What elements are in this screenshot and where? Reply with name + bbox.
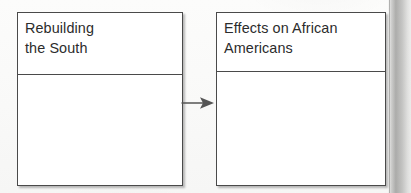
arrow-right-icon xyxy=(181,93,215,113)
box-header-rebuilding-the-south: Rebuilding the South xyxy=(18,13,182,75)
organizer-box-rebuilding-the-south: Rebuilding the South xyxy=(17,12,183,186)
organizer-box-effects-african-americans: Effects on African Americans xyxy=(216,12,386,186)
scan-page-edge-line xyxy=(389,0,390,193)
scan-page-edge-shadow xyxy=(388,0,411,193)
box-header-effects-african-americans: Effects on African Americans xyxy=(217,13,385,72)
